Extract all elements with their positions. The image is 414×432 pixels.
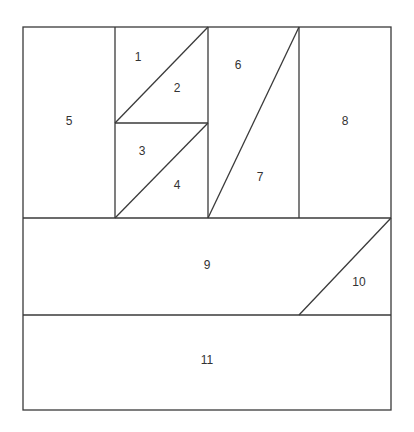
piece-label-1: 1 bbox=[135, 50, 142, 64]
piece-label-4: 4 bbox=[174, 178, 181, 192]
piece-label-5: 5 bbox=[66, 114, 73, 128]
piece-label-9: 9 bbox=[204, 258, 211, 272]
piece-label-10: 10 bbox=[352, 275, 366, 289]
piece-label-8: 8 bbox=[342, 114, 349, 128]
piece-label-3: 3 bbox=[139, 144, 146, 158]
piece-label-2: 2 bbox=[174, 81, 181, 95]
piece-label-11: 11 bbox=[201, 353, 214, 367]
diagonal-seam bbox=[115, 27, 208, 123]
diagonal-seam bbox=[208, 27, 299, 218]
quilt-block-diagram: 1 2 3 4 5 6 7 8 9 10 11 bbox=[0, 0, 414, 432]
diagonal-seam bbox=[299, 218, 391, 315]
piece-label-7: 7 bbox=[257, 170, 264, 184]
diagonal-seam bbox=[115, 123, 208, 218]
piece-label-6: 6 bbox=[235, 58, 242, 72]
